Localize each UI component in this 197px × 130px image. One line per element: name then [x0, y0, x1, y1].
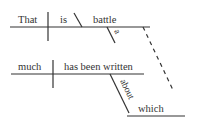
- sentence-diagram: That is battle a much has been written a…: [0, 0, 197, 130]
- word-which: which: [138, 103, 164, 114]
- word-that: That: [18, 14, 37, 25]
- word-battle: battle: [93, 14, 117, 25]
- relative-link-dashed: [143, 27, 173, 90]
- word-a: a: [112, 27, 123, 35]
- word-much: much: [18, 61, 42, 72]
- word-is: is: [60, 14, 67, 25]
- word-has-been-written: has been written: [64, 61, 134, 72]
- complement-divider: [74, 13, 82, 27]
